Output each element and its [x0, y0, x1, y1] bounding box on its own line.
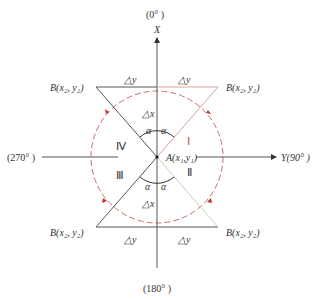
alpha-bottom-left: α — [145, 181, 151, 192]
circle-arrow-top-left — [105, 109, 109, 114]
quadrant-label-i: Ⅰ — [187, 135, 190, 147]
alpha-top-left: α — [146, 125, 152, 136]
dy-bottom-right: △y — [177, 234, 191, 245]
quadrant-label-iv: Ⅳ — [116, 140, 127, 152]
x-axis-label: X — [153, 24, 161, 35]
azimuth-diagram: (0° ) X (180° ) (270° ) Y(90° ) A(x₁,y₁)… — [0, 0, 318, 299]
point-label-bottom-left: B(x₂, y₂) — [50, 227, 84, 239]
point-label-top-right: B(x₂, y₂) — [226, 82, 260, 94]
quadrant-label-ii: Ⅱ — [187, 166, 192, 178]
quadrant-iii-line — [96, 157, 157, 227]
y-axis-label: Y(90° ) — [281, 152, 310, 164]
point-label-top-left: B(x₂, y₂) — [50, 82, 84, 94]
dy-top-left: △y — [123, 74, 137, 85]
dx-bottom: △x — [141, 198, 155, 209]
y-left-label: (270° ) — [7, 152, 35, 164]
circle-arrow-top-right — [206, 110, 211, 114]
center-point-label: A(x₁,y₁) — [165, 152, 198, 164]
quadrant-label-iii: Ⅲ — [116, 169, 124, 181]
quadrant-iv-line — [96, 87, 157, 157]
x-top-label: (0° ) — [146, 9, 164, 21]
point-label-bottom-right: B(x₂, y₂) — [226, 227, 260, 239]
center-point-dot — [155, 155, 158, 158]
alpha-bottom-right: α — [161, 181, 167, 192]
circle-arrow-bottom-left — [102, 198, 107, 203]
dy-bottom-left: △y — [123, 234, 137, 245]
alpha-top-right: α — [161, 125, 167, 136]
x-bottom-label: (180° ) — [143, 283, 171, 295]
dx-top: △x — [141, 108, 155, 119]
dy-top-right: △y — [177, 74, 191, 85]
